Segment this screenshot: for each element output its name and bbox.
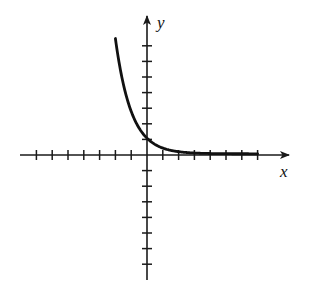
y-axis-label: y (155, 13, 165, 32)
function-graph: x y (0, 0, 316, 299)
x-axis-label: x (279, 162, 288, 181)
exponential-curve (115, 39, 257, 154)
